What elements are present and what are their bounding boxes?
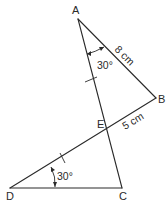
measurement-ab: 8 cm — [113, 43, 138, 68]
vertex-label-a: A — [72, 4, 80, 16]
vertex-label-b: B — [158, 93, 165, 105]
segment-ac — [78, 19, 122, 188]
vertex-label-e: E — [97, 118, 104, 130]
angle-arrow-d2 — [53, 182, 57, 187]
angle-label-d: 30° — [57, 170, 73, 182]
vertex-label-d: D — [6, 190, 14, 202]
vertex-label-c: C — [119, 190, 127, 202]
angle-label-a: 30° — [97, 59, 113, 71]
geometry-diagram: A B E D C 8 cm 5 cm 30° 30° — [0, 0, 168, 212]
measurement-eb: 5 cm — [120, 110, 146, 132]
equal-mark-ae — [85, 77, 97, 82]
segment-ab — [78, 19, 156, 98]
segment-bd — [10, 98, 156, 188]
